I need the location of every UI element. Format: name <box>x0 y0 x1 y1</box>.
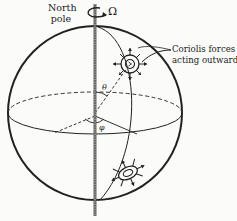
coriolis-label: Coriolis forces acting outwards <box>172 44 237 66</box>
coriolis-line2: acting outwards <box>172 55 237 66</box>
meridian-arc <box>98 27 132 200</box>
northern-vortex-icon <box>113 48 147 80</box>
radius-to-equator-left <box>54 116 95 133</box>
north-pole-label: North pole <box>48 2 74 24</box>
theta-label: θ <box>102 84 107 92</box>
sphere-diagram <box>0 0 237 221</box>
theta-arc <box>95 92 107 96</box>
radius-to-vortex <box>95 68 127 113</box>
rotation-label: Ω <box>108 6 117 17</box>
southern-vortex-icon <box>106 153 150 194</box>
diagram-canvas: North pole Ω Coriolis forces acting outw… <box>0 0 237 221</box>
north-pole-line1: North <box>48 2 74 13</box>
coriolis-line1: Coriolis forces <box>172 44 237 55</box>
rotation-arrow-icon <box>88 8 107 17</box>
north-pole-line2: pole <box>48 13 74 24</box>
phi-label: φ <box>99 124 105 132</box>
